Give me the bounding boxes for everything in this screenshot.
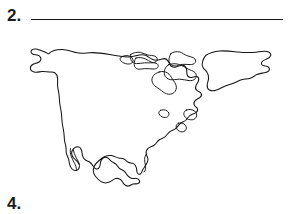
greenland-outline — [202, 51, 271, 91]
north-america-map — [0, 28, 295, 188]
question-number-2: 2. — [7, 7, 21, 24]
arctic-island-baffin — [164, 64, 196, 81]
north-america-outline-svg — [0, 28, 295, 188]
florida-peninsula — [144, 154, 146, 172]
worksheet-page: 2. — [0, 0, 295, 214]
newfoundland-island — [184, 109, 197, 119]
mainland-outline — [30, 49, 201, 186]
answer-line-2[interactable] — [31, 19, 283, 20]
question-number-4: 4. — [7, 195, 21, 212]
great-lakes-region — [159, 110, 169, 118]
nova-scotia — [176, 123, 186, 132]
